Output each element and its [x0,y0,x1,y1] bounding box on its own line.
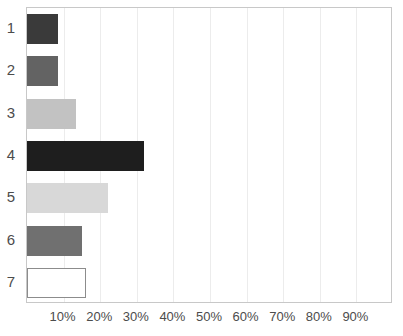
bar-2 [27,56,58,86]
y-tick-label-7: 7 [0,274,22,289]
x-tick-label-90: 90% [332,310,378,323]
bar-6 [27,226,82,256]
bar-chart: 1234567 10%20%30%40%50%60%70%80%90% [0,0,403,336]
y-tick-label-6: 6 [0,232,22,247]
gridline-50 [210,8,211,302]
gridline-60 [247,8,248,302]
y-tick-label-5: 5 [0,189,22,204]
bar-3 [27,99,76,129]
y-tick-label-2: 2 [0,62,22,77]
x-axis-labels: 10%20%30%40%50%60%70%80%90% [0,310,403,332]
y-tick-label-4: 4 [0,147,22,162]
y-tick-label-3: 3 [0,105,22,120]
bar-4 [27,141,144,171]
y-tick-label-1: 1 [0,20,22,35]
gridline-70 [283,8,284,302]
bar-1 [27,14,58,44]
gridline-90 [356,8,357,302]
gridline-40 [173,8,174,302]
bar-5 [27,183,108,213]
plot-area [26,7,392,303]
gridline-80 [320,8,321,302]
y-axis-labels: 1234567 [0,7,24,303]
bar-7 [27,268,86,298]
